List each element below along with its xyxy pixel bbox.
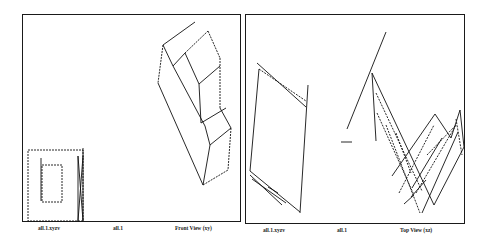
top-view-label: Top View (xz) [400,227,432,233]
left-quad [250,63,308,213]
top-file-label: all.1.xyzv [263,227,285,233]
zigzag-bundle [341,32,464,213]
front-view-drawing [23,15,242,223]
small-box-x [78,148,83,221]
front-file-label: all.1.xyzv [38,225,60,231]
front-view-label: Front View (xy) [175,225,212,231]
block-3d [158,22,231,185]
front-view-panel [22,14,241,222]
small-box-outline [28,150,83,221]
top-view-panel [245,14,465,224]
top-set-label: all.1 [337,227,347,233]
front-set-label: all.1 [113,225,123,231]
top-view-drawing [246,15,466,225]
